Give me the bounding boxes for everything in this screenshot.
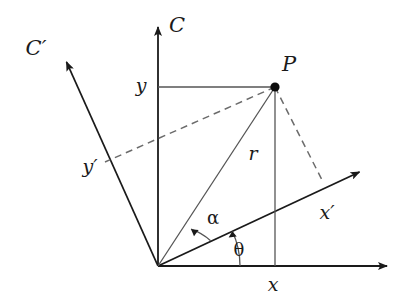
coord-y-label: y <box>136 76 147 95</box>
diagram-canvas <box>0 0 414 301</box>
coord-x-label: x <box>268 275 279 294</box>
axis-y-prime-label: y′ <box>82 157 97 176</box>
geometry-diagram: C C′ P y x y′ x′ r α θ <box>0 0 414 301</box>
dashed-projection-to-x-prime <box>275 87 322 180</box>
angle-alpha-label: α <box>207 209 219 227</box>
axis-c-prime-label: C′ <box>26 38 47 59</box>
radius-r-label: r <box>248 144 257 163</box>
angle-theta-label: θ <box>234 241 245 259</box>
point-p-label: P <box>282 54 296 75</box>
angle-arc-alpha-arrowhead <box>191 229 199 236</box>
point-p-marker <box>270 82 279 91</box>
axis-x-prime-label: x′ <box>319 203 334 222</box>
axis-c-label: C <box>169 15 185 36</box>
